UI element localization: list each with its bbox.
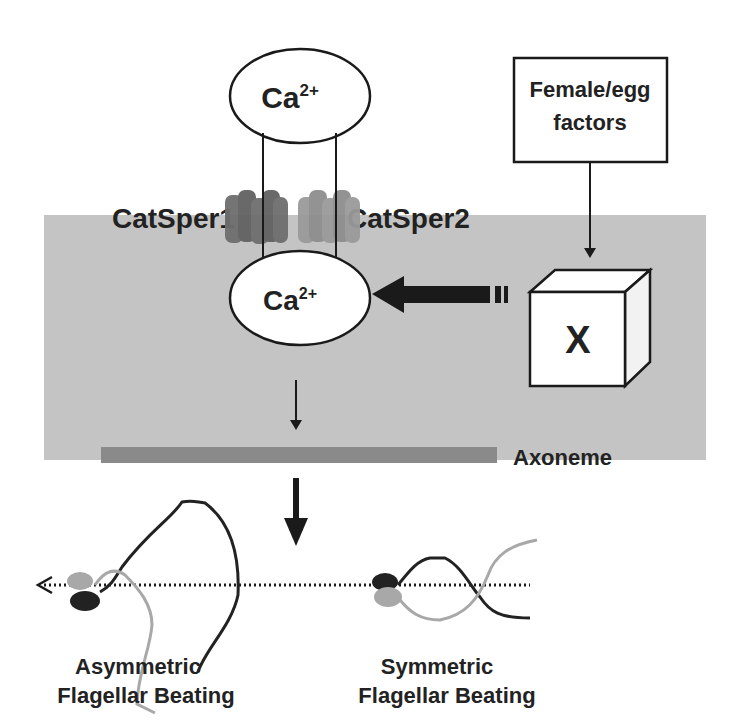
asymmetric-sperm-icon — [67, 501, 238, 713]
axoneme-label: Axoneme — [513, 445, 612, 470]
asymmetric-label-line1: Asymmetric — [75, 654, 201, 679]
svg-text:X: X — [565, 319, 591, 361]
symmetric-label-line1: Symmetric — [381, 654, 494, 679]
catsper2-label: CatSper2 — [347, 203, 470, 234]
extracellular-calcium: Ca2+ — [230, 49, 370, 143]
axoneme-bar — [101, 447, 497, 463]
factor-x-cube: X — [530, 270, 650, 386]
svg-text:factors: factors — [553, 110, 626, 135]
asymmetric-label-line2: Flagellar Beating — [57, 683, 234, 708]
outcome-arrow — [284, 478, 308, 546]
catsper1-channel-icon — [225, 190, 288, 244]
intracellular-calcium: Ca2+ — [230, 251, 370, 345]
symmetric-sperm-icon — [372, 540, 537, 620]
svg-text:Female/egg: Female/egg — [529, 77, 650, 102]
symmetric-label-line2: Flagellar Beating — [358, 683, 535, 708]
catsper2-channel-icon — [298, 190, 360, 243]
catsper1-label: CatSper1 — [112, 203, 235, 234]
female-egg-factors-box: Female/egg factors — [514, 58, 667, 162]
catsper-diagram: Ca2+ CatSper1 CatSper2 Ca2+ Female/egg f… — [0, 0, 744, 727]
